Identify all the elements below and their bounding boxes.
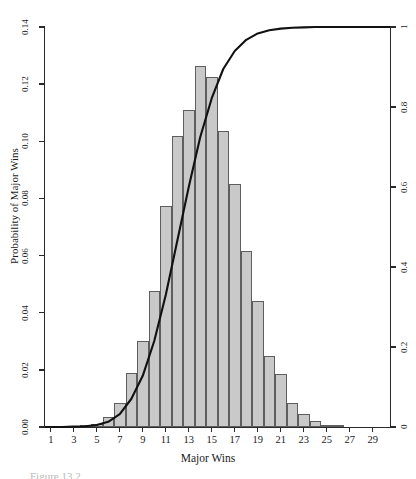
y-tick-left [39, 255, 45, 256]
y-tick-label-left: 0.14 [20, 12, 32, 42]
y-tick-right [390, 346, 396, 347]
y-tick-left [39, 141, 45, 142]
x-tick-label: 11 [161, 434, 171, 445]
y-tick-label-left: 0.06 [20, 241, 32, 271]
y-tick-label-left: 0.12 [20, 69, 32, 99]
x-tick-label: 9 [140, 434, 145, 445]
x-tick [188, 427, 189, 432]
y-tick-left [39, 369, 45, 370]
y-tick-right [390, 26, 396, 27]
x-tick-label: 27 [345, 434, 356, 445]
x-tick-label: 17 [230, 434, 241, 445]
x-tick-label: 7 [117, 434, 122, 445]
y-tick-label-right: 0.8 [399, 92, 411, 122]
x-tick-label: 29 [368, 434, 379, 445]
x-tick-label: 13 [184, 434, 195, 445]
y-tick-label-right: 0.4 [399, 252, 411, 282]
y-tick-label-left: 0.08 [20, 183, 32, 213]
y-tick-label-left: 0.00 [20, 412, 32, 442]
x-tick-label: 25 [322, 434, 333, 445]
x-tick-label: 5 [94, 434, 99, 445]
y-tick-left [39, 83, 45, 84]
x-tick [372, 427, 373, 432]
x-tick-label: 15 [207, 434, 218, 445]
y-tick-label-left: 0.02 [20, 355, 32, 385]
y-tick-label-left: 0.10 [20, 126, 32, 156]
x-tick [50, 427, 51, 432]
x-tick-label: 3 [71, 434, 76, 445]
y-tick-right [390, 426, 396, 427]
x-tick [119, 427, 120, 432]
y-tick-label-right: 0 [399, 412, 411, 442]
y-tick-right [390, 186, 396, 187]
y-tick-label-left: 0.04 [20, 298, 32, 328]
x-tick [303, 427, 304, 432]
y-tick-label-right: 1 [399, 12, 411, 42]
x-tick-label: 19 [253, 434, 264, 445]
x-tick [234, 427, 235, 432]
y-tick-label-right: 0.2 [399, 332, 411, 362]
x-tick [326, 427, 327, 432]
y-axis-title-text: Probability of Major Wins [8, 146, 20, 266]
y-tick-left [39, 198, 45, 199]
x-tick [142, 427, 143, 432]
y-tick-right [390, 266, 396, 267]
x-tick-label: 21 [276, 434, 287, 445]
x-tick [257, 427, 258, 432]
x-tick [165, 427, 166, 432]
y-tick-label-right: 0.6 [399, 172, 411, 202]
figure-caption: Figure 13.2 [0, 470, 416, 479]
x-axis-title: Major Wins [0, 452, 416, 464]
x-tick-label: 23 [299, 434, 310, 445]
x-tick [349, 427, 350, 432]
y-tick-left [39, 312, 45, 313]
x-tick [96, 427, 97, 432]
x-tick-label: 1 [48, 434, 53, 445]
cumulative-curve [45, 27, 390, 427]
plot-area: 0.000.020.040.060.080.100.120.14 00.20.4… [45, 27, 390, 427]
y-axis-line-right [390, 27, 391, 427]
x-tick [280, 427, 281, 432]
y-tick-left [39, 426, 45, 427]
figure-container: Probability of Major Wins 0.000.020.040.… [0, 0, 416, 479]
x-tick [211, 427, 212, 432]
y-tick-right [390, 106, 396, 107]
y-tick-left [39, 26, 45, 27]
x-tick [73, 427, 74, 432]
